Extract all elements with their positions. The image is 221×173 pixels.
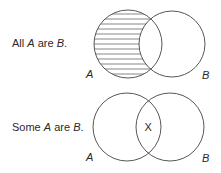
label-a: A: [85, 68, 93, 80]
x-marker: X: [145, 121, 153, 133]
venn-some-a-are-b: X A B: [85, 93, 209, 164]
label-b: B: [202, 152, 209, 164]
label-a: A: [85, 151, 93, 163]
hatch-shading: [90, 14, 170, 74]
venn-diagrams: A B X A B: [0, 0, 221, 173]
label-b: B: [202, 69, 209, 81]
venn-all-a-are-b: A B: [85, 10, 209, 81]
